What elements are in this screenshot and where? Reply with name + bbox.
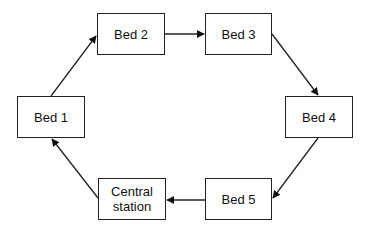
node-bed-1: Bed 1 xyxy=(17,96,85,138)
node-bed-5: Bed 5 xyxy=(205,178,272,220)
node-bed-3: Bed 3 xyxy=(205,13,272,55)
edge-central-to-bed1 xyxy=(52,139,98,198)
edge-bed1-to-bed2 xyxy=(51,36,96,96)
node-bed-4: Bed 4 xyxy=(285,96,353,138)
node-bed-2: Bed 2 xyxy=(97,13,165,55)
node-central-station: Central station xyxy=(98,178,166,220)
edge-bed3-to-bed4 xyxy=(272,34,318,95)
edge-bed4-to-bed5 xyxy=(273,138,318,198)
